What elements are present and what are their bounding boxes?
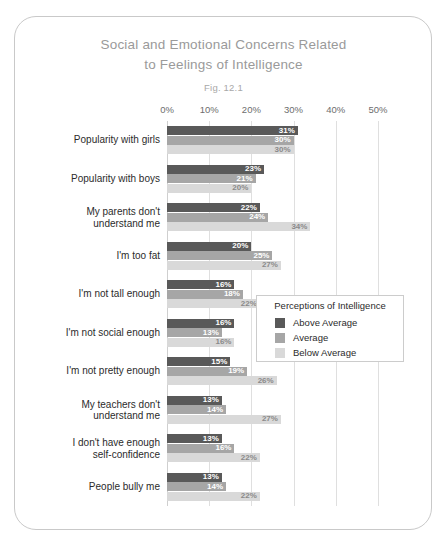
bar: 26% bbox=[167, 376, 277, 385]
bar: 34% bbox=[167, 222, 310, 231]
bar-value-label: 24% bbox=[249, 211, 265, 222]
bar: 22% bbox=[167, 299, 260, 308]
bar: 13% bbox=[167, 328, 222, 337]
bar: 25% bbox=[167, 251, 272, 260]
bar: 14% bbox=[167, 405, 226, 414]
bar-value-label: 18% bbox=[224, 288, 240, 299]
bar-value-label: 26% bbox=[258, 375, 274, 386]
bar: 16% bbox=[167, 338, 234, 347]
legend-item-label: Below Average bbox=[293, 347, 356, 358]
x-axis-tick-label: 10% bbox=[200, 104, 219, 115]
bar: 20% bbox=[167, 184, 251, 193]
category-label: Popularity with girls bbox=[74, 135, 160, 147]
bar-value-label: 27% bbox=[262, 413, 278, 424]
bar-value-label: 22% bbox=[241, 298, 257, 309]
bar-value-label: 16% bbox=[215, 442, 231, 453]
bar-value-label: 22% bbox=[241, 490, 257, 501]
bar-chart: 0%10%20%30%40%50% Popularity with girlsP… bbox=[0, 0, 447, 547]
legend-item-label: Above Average bbox=[293, 317, 357, 328]
bar-value-label: 14% bbox=[207, 481, 223, 492]
category-label: I'm not tall enough bbox=[79, 289, 160, 301]
category-label: I don't have enough self-confidence bbox=[72, 437, 160, 460]
legend-item: Above Average bbox=[275, 316, 357, 329]
bar-value-label: 15% bbox=[211, 356, 227, 367]
bar-value-label: 27% bbox=[262, 259, 278, 270]
chart-legend: Perceptions of Intelligence Above Averag… bbox=[256, 295, 404, 362]
category-label: Popularity with boys bbox=[71, 173, 160, 185]
category-label: I'm too fat bbox=[116, 250, 160, 262]
bar: 19% bbox=[167, 367, 247, 376]
legend-item: Average bbox=[275, 331, 328, 344]
legend-swatch-icon bbox=[275, 318, 285, 328]
bar: 15% bbox=[167, 357, 230, 366]
bar: 18% bbox=[167, 290, 243, 299]
category-label: I'm not pretty enough bbox=[66, 366, 160, 378]
legend-item: Below Average bbox=[275, 346, 356, 359]
bar-value-label: 19% bbox=[228, 365, 244, 376]
bar-value-label: 20% bbox=[232, 240, 248, 251]
bar: 16% bbox=[167, 444, 234, 453]
legend-title: Perceptions of Intelligence bbox=[257, 300, 403, 311]
bar: 27% bbox=[167, 261, 281, 270]
bar: 13% bbox=[167, 434, 222, 443]
bar-value-label: 22% bbox=[241, 452, 257, 463]
bar: 22% bbox=[167, 203, 260, 212]
x-axis-tick-label: 40% bbox=[326, 104, 345, 115]
category-label: I'm not social enough bbox=[66, 327, 160, 339]
bar: 22% bbox=[167, 492, 260, 501]
bar: 14% bbox=[167, 482, 226, 491]
legend-swatch-icon bbox=[275, 348, 285, 358]
legend-swatch-icon bbox=[275, 333, 285, 343]
bar-value-label: 20% bbox=[232, 182, 248, 193]
category-label: People bully me bbox=[89, 481, 160, 493]
bar: 20% bbox=[167, 242, 251, 251]
bar: 24% bbox=[167, 213, 268, 222]
bar: 30% bbox=[167, 145, 294, 154]
x-axis-tick-label: 0% bbox=[160, 104, 174, 115]
bar: 16% bbox=[167, 319, 234, 328]
x-axis-tick-labels: 0%10%20%30%40%50% bbox=[167, 104, 399, 118]
y-axis-category-labels: Popularity with girlsPopularity with boy… bbox=[34, 121, 164, 506]
x-axis-tick-label: 30% bbox=[284, 104, 303, 115]
bar: 22% bbox=[167, 453, 260, 462]
bar-value-label: 30% bbox=[275, 144, 291, 155]
x-axis-tick-label: 20% bbox=[242, 104, 261, 115]
bar-value-label: 34% bbox=[291, 221, 307, 232]
bar-value-label: 14% bbox=[207, 404, 223, 415]
legend-item-label: Average bbox=[293, 332, 328, 343]
bar-value-label: 16% bbox=[215, 336, 231, 347]
bar: 27% bbox=[167, 415, 281, 424]
x-axis-tick-label: 50% bbox=[368, 104, 387, 115]
category-label: My teachers don't understand me bbox=[81, 398, 160, 421]
category-label: My parents don't understand me bbox=[86, 206, 160, 229]
